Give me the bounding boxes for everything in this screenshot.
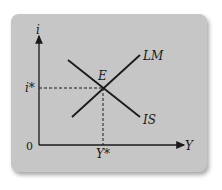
lm-curve xyxy=(72,55,140,117)
i-star-label: i* xyxy=(25,81,35,95)
lm-label: LM xyxy=(142,49,164,63)
is-label: IS xyxy=(142,113,156,127)
y-star-label: Y* xyxy=(96,147,110,161)
is-lm-diagram: i Y 0 LM IS E i* Y* xyxy=(0,0,222,190)
equilibrium-label: E xyxy=(97,69,107,83)
x-axis-label: Y xyxy=(185,139,194,153)
origin-label: 0 xyxy=(26,140,33,153)
y-axis-label: i xyxy=(36,23,40,37)
